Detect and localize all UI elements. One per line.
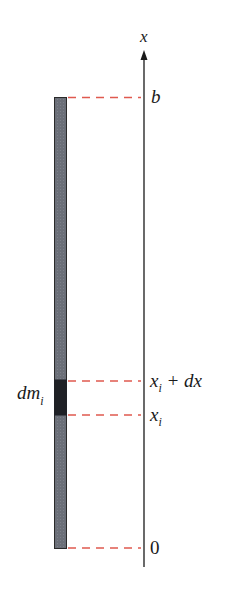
label-xi: xi [149, 404, 162, 429]
mass-element [55, 380, 67, 415]
x-axis [141, 50, 148, 567]
label-xi-plus-dx: xi + dx [149, 370, 203, 395]
rod [55, 98, 67, 549]
rod-diagram: x b xi + dx xi 0 dmi [0, 0, 238, 592]
label-dm-i: dmi [17, 382, 44, 408]
arrowhead-icon [141, 50, 148, 60]
label-b: b [151, 86, 161, 107]
axis-label: x [139, 27, 148, 46]
guide-lines [68, 98, 141, 549]
label-zero: 0 [150, 537, 160, 558]
